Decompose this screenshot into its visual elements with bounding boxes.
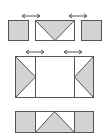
stage-1 — [9, 14, 102, 41]
double-arrow-icon — [26, 50, 44, 54]
left-section — [16, 112, 36, 133]
right-square-panel — [82, 21, 102, 41]
double-arrow-icon — [69, 14, 87, 18]
left-square-panel — [9, 21, 29, 41]
stage-2 — [16, 50, 94, 98]
double-arrow-icon — [64, 50, 82, 54]
folding-net-diagram — [0, 0, 104, 140]
right-section — [75, 112, 94, 133]
stage-3 — [16, 112, 94, 133]
double-arrow-icon — [22, 14, 40, 18]
